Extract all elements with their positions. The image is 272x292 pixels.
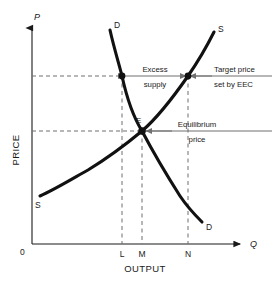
target-price-line1: Target price <box>214 65 255 74</box>
equilibrium-point <box>138 127 146 135</box>
equilibrium-price-line2: price <box>189 135 206 144</box>
equilibrium-price-annotation: Equilibrium price <box>178 120 217 144</box>
y-axis-variable-label: P <box>34 12 40 22</box>
excess-supply-annotation: Excess supply <box>142 65 167 89</box>
equilibrium-price-line1: Equilibrium <box>178 120 217 129</box>
x-axis-title: OUTPUT <box>124 263 165 274</box>
y-axis-title: PRICE <box>10 134 21 165</box>
target-price-annotation: Target price set by EEC <box>214 65 255 89</box>
supply-at-target-point <box>185 73 192 80</box>
supply-demand-figure: P Q 0 PRICE OUTPUT <box>0 0 272 292</box>
excess-supply-line1: Excess <box>142 65 167 74</box>
equilibrium-point-label: E <box>136 116 141 125</box>
supply-curve-top-label: S <box>218 24 224 34</box>
x-axis-variable-label: Q <box>250 239 257 249</box>
x-tick-label-M: M <box>138 249 145 259</box>
supply-curve-bottom-label: S <box>35 200 41 210</box>
demand-curve-top-label: D <box>114 20 120 30</box>
demand-at-target-point <box>119 73 126 80</box>
x-tick-label-N: N <box>185 249 191 259</box>
origin-label: 0 <box>20 247 25 257</box>
target-price-line2: set by EEC <box>214 80 253 89</box>
demand-curve-bottom-label: D <box>206 222 212 232</box>
x-tick-label-L: L <box>120 249 125 259</box>
excess-supply-line2: supply <box>144 80 167 89</box>
